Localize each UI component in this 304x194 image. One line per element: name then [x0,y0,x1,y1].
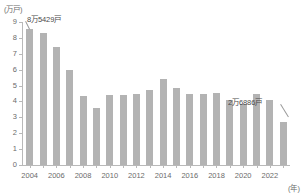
y-axis-tick-label: 9 [2,18,17,26]
bar [80,96,87,165]
y-axis-tick-label: 1 [2,145,17,153]
x-axis-minor-tick-mark [230,166,231,168]
x-axis-tick-label: 2020 [235,171,252,180]
y-axis-tick-mark [19,149,22,150]
x-axis-tick-label: 2022 [262,171,279,180]
bar-slot [63,22,76,165]
bar-slot: 2012 [130,22,143,165]
bar-slot: 2020 [237,22,250,165]
y-axis-tick-label: 6 [2,66,17,74]
bar-slot [250,22,263,165]
x-axis-line [22,165,290,166]
bar-slot: 2016 [183,22,196,165]
x-axis-tick-label: 2006 [48,171,65,180]
bar [26,29,33,165]
bar-slot: 2022 [263,22,276,165]
x-axis-minor-tick-mark [96,166,97,168]
bar-chart: (万戸) (年) 0123456789 20042006200820102012… [0,0,304,194]
x-axis-minor-tick-mark [257,166,258,168]
bar [40,33,47,165]
x-axis-tick-mark [216,165,217,168]
bar [266,100,273,165]
bar-slot [196,22,209,165]
bar-slot [116,22,129,165]
bar [240,104,247,165]
y-axis-tick-label: 5 [2,82,17,90]
bar [186,94,193,166]
x-axis-tick-mark [110,165,111,168]
y-axis-tick-mark [19,54,22,55]
bar [213,93,220,165]
x-axis-tick-label: 2010 [101,171,118,180]
bar [66,70,73,165]
bar [53,47,60,165]
x-axis-tick-mark [190,165,191,168]
bar [280,122,287,165]
x-axis-tick-mark [270,165,271,168]
y-axis-tick-label: 7 [2,50,17,58]
x-axis-minor-tick-mark [203,166,204,168]
y-axis-tick-label: 0 [2,161,17,169]
bar [160,79,167,165]
y-axis-tick-mark [19,86,22,87]
bar-slot [277,22,290,165]
x-axis-minor-tick-mark [43,166,44,168]
x-axis-tick-mark [163,165,164,168]
y-axis-tick-mark [19,38,22,39]
y-axis-tick-mark [19,165,22,166]
bar [200,94,207,166]
bar-slot [90,22,103,165]
bar-slot [223,22,236,165]
x-axis-minor-tick-mark [176,166,177,168]
y-axis-tick-label: 4 [2,97,17,105]
bar-slot [143,22,156,165]
bar-slot [170,22,183,165]
y-axis-tick-label: 2 [2,129,17,137]
x-axis-tick-label: 2012 [128,171,145,180]
bar-slot [36,22,49,165]
x-axis-minor-tick-mark [123,166,124,168]
bar [173,88,180,165]
bar [106,95,113,165]
bar [93,108,100,165]
bar-slot: 2010 [103,22,116,165]
annotation-2004-label: 8万5429戸 [27,13,61,24]
y-axis-tick-label: 8 [2,34,17,42]
bar-slot: 2004 [23,22,36,165]
x-axis-tick-label: 2014 [155,171,172,180]
bar [146,90,153,165]
bar-series: 2004200620082010201220142016201820202022 [23,22,290,165]
x-axis-unit-label: (年) [288,182,300,193]
x-axis-tick-mark [56,165,57,168]
x-axis-tick-mark [30,165,31,168]
plot-area: 0123456789 20042006200820102012201420162… [22,22,290,166]
y-axis-tick-mark [19,70,22,71]
bar-slot: 2014 [156,22,169,165]
x-axis-tick-mark [243,165,244,168]
bar [120,95,127,165]
x-axis-minor-tick-mark [150,166,151,168]
x-axis-tick-label: 2008 [75,171,92,180]
x-axis-tick-label: 2016 [181,171,198,180]
x-axis-minor-tick-mark [70,166,71,168]
y-axis-tick-mark [19,133,22,134]
y-axis-tick-mark [19,101,22,102]
bar [133,94,140,166]
x-axis-tick-mark [136,165,137,168]
annotation-2023-label: 2万6886戸 [228,96,262,107]
x-axis-tick-label: 2018 [208,171,225,180]
x-axis-tick-label: 2004 [21,171,38,180]
x-axis-tick-mark [83,165,84,168]
y-axis-tick-label: 3 [2,113,17,121]
y-axis-tick-mark [19,22,22,23]
bar-slot: 2008 [76,22,89,165]
x-axis-minor-tick-mark [283,166,284,168]
bar-slot: 2006 [50,22,63,165]
bar-slot: 2018 [210,22,223,165]
y-axis-unit-label: (万戸) [4,3,22,14]
y-axis-tick-mark [19,117,22,118]
bar [226,100,233,165]
